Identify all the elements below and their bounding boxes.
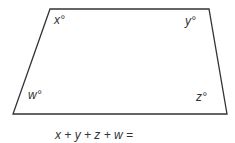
quadrilateral-diagram: x° y° z° w° x + y + z + w = xyxy=(0,0,235,143)
sum-equation: x + y + z + w = xyxy=(54,128,133,142)
angle-label-top-left: x° xyxy=(53,13,65,27)
angle-label-top-right: y° xyxy=(184,14,196,28)
angle-label-bottom-left: w° xyxy=(28,88,42,102)
angle-label-bottom-right: z° xyxy=(195,90,207,104)
